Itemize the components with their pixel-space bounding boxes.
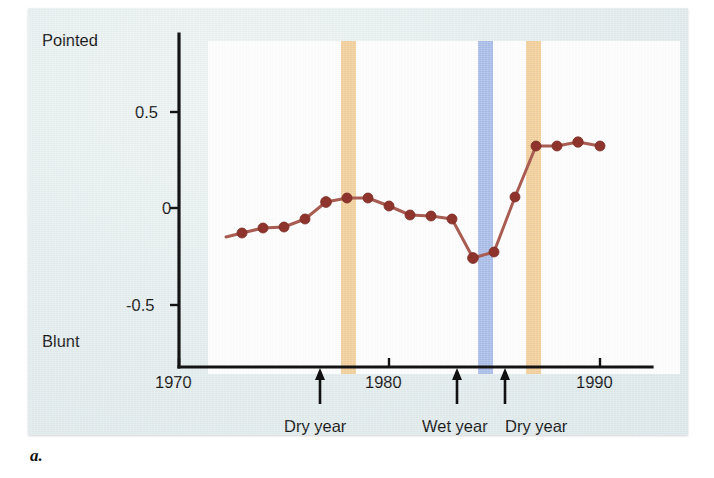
data-point [258,223,268,233]
arrow-wet-year [452,368,462,404]
data-point [321,197,332,208]
data-point [510,192,520,202]
panel-caption: a. [30,446,43,466]
chart-vector-overlay [0,0,714,478]
figure-root: Pointed Blunt 0.5 0 -0.5 1970 1980 1990 … [0,0,714,478]
arrow-dry-year-1 [315,368,325,404]
data-point [595,141,605,151]
annotation-arrows [315,368,510,404]
data-point [342,193,352,203]
data-point [384,201,394,211]
data-point [447,214,457,224]
data-point [573,137,583,147]
data-point [531,141,541,151]
data-point [552,141,562,151]
data-series-beak-shape [226,137,605,264]
data-line [226,142,600,258]
axes-group [179,34,652,367]
data-point [489,247,499,257]
data-point [426,211,436,221]
data-point [237,228,247,238]
arrow-dry-year-2 [500,368,510,404]
data-point [279,222,289,232]
data-point [300,214,310,224]
data-point [405,210,415,220]
data-point [363,193,373,203]
data-point [468,253,479,264]
